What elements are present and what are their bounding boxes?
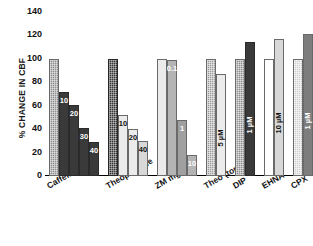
plot-area: 102030401020400.11105 µM1 µM10 µM1 µM: [45, 12, 307, 176]
bar-value-label: 30: [80, 133, 88, 141]
bar-treated: 0.1: [167, 60, 177, 176]
bar-value-label: 10 µM: [275, 113, 283, 134]
bar-value-label: 1 µM: [246, 117, 254, 134]
y-tick-label: 80: [16, 77, 42, 86]
bar-treated: 10: [187, 155, 197, 176]
bar-chart: % CHANGE IN CBF 020406080100120140 10203…: [0, 0, 313, 246]
bar-group: 1 µM: [293, 12, 313, 176]
y-tick-label: 120: [16, 30, 42, 39]
bar-treated: 10: [59, 92, 69, 176]
bar-value-label: 20: [129, 134, 137, 142]
x-category-label: DIP: [231, 175, 248, 191]
bar-value-label: 10: [60, 97, 68, 105]
bar-control: [49, 59, 59, 176]
bar-control: [108, 59, 118, 176]
bar-value-label: 40: [90, 147, 98, 155]
bar-value-label: 10: [119, 120, 127, 128]
bar-treated: 20: [128, 129, 138, 176]
bar-group: 10203040: [49, 12, 99, 176]
bar-treated: 10: [118, 115, 128, 176]
bar-value-label: 1: [180, 125, 184, 133]
bar-treated: 40: [89, 142, 99, 176]
bar-treated: 1 µM: [303, 34, 313, 176]
bar-treated: 30: [79, 128, 89, 176]
bar-treated: 1: [177, 120, 187, 176]
bar-control: [157, 59, 167, 176]
bar-group: 102040: [108, 12, 148, 176]
bar-group: 10 µM: [264, 12, 284, 176]
bar-value-label: 20: [70, 110, 78, 118]
bar-control: [235, 59, 245, 176]
y-tick-label: 40: [16, 124, 42, 133]
bar-treated: 40: [138, 141, 148, 176]
bar-group: 0.1110: [157, 12, 197, 176]
bar-control: [206, 59, 216, 176]
bar-control: [293, 59, 303, 176]
bar-value-label: 5 µM: [217, 130, 225, 147]
y-axis-tick-labels: 020406080100120140: [14, 0, 42, 246]
bar-value-label: 10: [188, 160, 196, 168]
bar-value-label: 1 µM: [304, 113, 312, 130]
bar-control: [264, 59, 274, 176]
bar-group: 1 µM: [235, 12, 255, 176]
bar-treated: 10 µM: [274, 39, 284, 176]
bar-value-label: 0.1: [167, 65, 177, 73]
y-tick-label: 100: [16, 54, 42, 63]
bar-treated: 1 µM: [245, 42, 255, 176]
bar-treated: 20: [69, 105, 79, 176]
y-tick-label: 0: [16, 171, 42, 180]
bar-treated: 5 µM: [216, 74, 226, 176]
bar-value-label: 40: [139, 146, 147, 154]
y-tick-label: 140: [16, 7, 42, 16]
y-tick-label: 60: [16, 101, 42, 110]
y-tick-label: 20: [16, 148, 42, 157]
bar-group: 5 µM: [206, 12, 226, 176]
